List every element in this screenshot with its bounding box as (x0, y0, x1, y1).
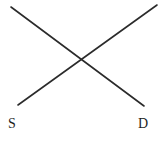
line-diagram: S D (0, 0, 163, 142)
demand-curve-line (18, 5, 157, 105)
demand-curve-label: D (138, 117, 148, 131)
supply-curve-label: S (8, 117, 16, 131)
supply-curve-line (11, 7, 144, 106)
